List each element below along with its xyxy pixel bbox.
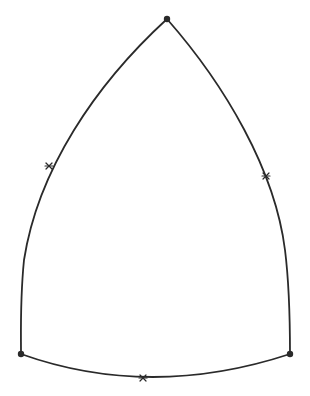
left-midpoint-asterisk-icon bbox=[45, 163, 53, 169]
curved-triangle-diagram bbox=[0, 0, 310, 396]
vertex-top-dot bbox=[164, 16, 170, 22]
right-side-curve bbox=[167, 19, 290, 354]
bottom-midpoint-asterisk-icon bbox=[139, 375, 147, 381]
bottom-side-curve bbox=[21, 354, 290, 377]
vertex-bottom-left-dot bbox=[18, 351, 24, 357]
vertex-bottom-right-dot bbox=[287, 351, 293, 357]
left-side-curve bbox=[21, 19, 167, 354]
